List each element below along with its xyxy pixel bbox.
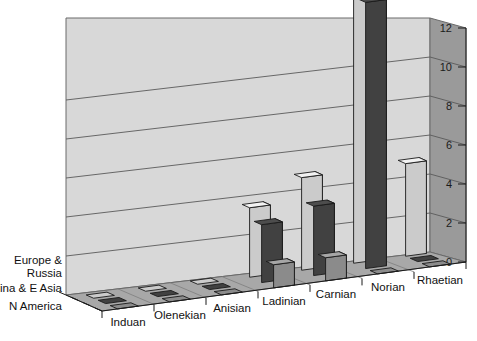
y-tick-label: 2: [446, 217, 452, 229]
x-axis-label-norian: Norian: [371, 281, 405, 293]
bar-chart-3d: 0 2 4 6 8 10 12: [0, 0, 477, 341]
y-tick-label: 8: [446, 100, 452, 112]
series-label-n-america: N America: [9, 300, 63, 312]
x-axis-label-olenekian: Olenekian: [154, 309, 206, 321]
x-axis-label-induan: Induan: [110, 316, 145, 328]
bar-front-6-0: [406, 161, 427, 256]
series-label-china-e-asia: China & E Asia: [0, 282, 63, 294]
series-labels: Europe & Russia China & E Asia N America: [0, 254, 63, 312]
y-tick-label: 12: [440, 22, 452, 34]
bar-front-3-2: [274, 262, 295, 288]
bar-front-5-1: [366, 0, 387, 269]
x-axis-label-ladinian: Ladinian: [262, 295, 305, 307]
y-tick-label: 0: [446, 256, 452, 268]
x-axis-label-carnian: Carnian: [316, 288, 356, 300]
x-axis-label-anisian: Anisian: [213, 302, 251, 314]
series-label-europe-russia-line1: Europe &: [14, 254, 62, 266]
y-tick-label: 4: [446, 178, 452, 190]
x-axis-label-rhaetian: Rhaetian: [417, 274, 463, 286]
chart-container: 0 2 4 6 8 10 12: [0, 0, 477, 341]
series-label-europe-russia-line2: Russia: [27, 267, 63, 279]
y-tick-label: 10: [440, 61, 452, 73]
y-tick-label: 6: [446, 139, 452, 151]
bar-front-4-2: [326, 255, 347, 281]
